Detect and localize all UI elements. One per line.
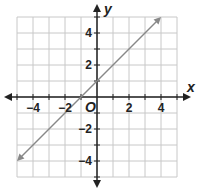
svg-text:2: 2 [85, 58, 92, 72]
svg-text:−4: −4 [78, 154, 92, 168]
origin-label: O [85, 99, 96, 115]
coordinate-plane: −4−22442−2−4 x y O [0, 0, 197, 192]
svg-text:2: 2 [126, 101, 133, 115]
svg-text:4: 4 [158, 101, 165, 115]
svg-text:−2: −2 [78, 122, 92, 136]
x-axis-label: x [186, 79, 196, 95]
y-axis-label: y [103, 1, 113, 17]
axes [4, 4, 191, 188]
svg-text:4: 4 [85, 26, 92, 40]
svg-text:−2: −2 [58, 101, 72, 115]
svg-text:−4: −4 [26, 101, 40, 115]
